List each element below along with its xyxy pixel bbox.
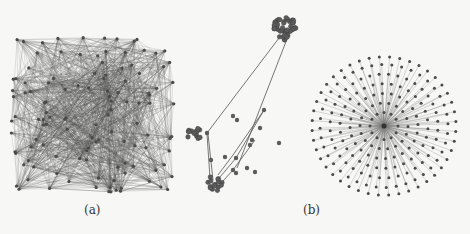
graph-node bbox=[135, 38, 138, 41]
graph-node bbox=[352, 167, 355, 170]
graph-node bbox=[110, 108, 113, 111]
graph-node bbox=[117, 91, 120, 94]
graph-node bbox=[339, 131, 342, 134]
graph-edge bbox=[333, 77, 384, 126]
graph-node bbox=[381, 92, 384, 95]
graph-node bbox=[78, 157, 81, 160]
graph-node bbox=[341, 139, 344, 142]
graph-node bbox=[170, 175, 173, 178]
graph-node bbox=[425, 180, 428, 183]
graph-node bbox=[209, 179, 214, 184]
graph-node bbox=[414, 178, 417, 181]
graph-node bbox=[399, 85, 402, 88]
graph-node bbox=[364, 139, 367, 142]
graph-node bbox=[370, 131, 373, 134]
graph-node bbox=[106, 89, 109, 92]
graph-node bbox=[413, 140, 416, 143]
graph-node bbox=[397, 175, 400, 178]
graph-node bbox=[45, 123, 48, 126]
graph-node bbox=[433, 174, 436, 177]
graph-node bbox=[124, 51, 127, 54]
graph-node bbox=[93, 72, 96, 75]
graph-node bbox=[280, 26, 285, 31]
graph-node bbox=[42, 123, 45, 126]
graph-node bbox=[384, 167, 387, 170]
graph-node bbox=[10, 131, 13, 134]
graph-node bbox=[331, 173, 334, 176]
graph-node bbox=[248, 143, 252, 147]
graph-node bbox=[329, 120, 332, 123]
graph-node bbox=[104, 73, 107, 76]
graph-node bbox=[394, 145, 397, 148]
graph-node bbox=[344, 88, 347, 91]
graph-node bbox=[79, 53, 82, 56]
graph-node bbox=[446, 92, 449, 95]
graph-node bbox=[352, 109, 355, 112]
graph-node bbox=[390, 136, 393, 139]
graph-node bbox=[398, 57, 401, 60]
graph-node bbox=[387, 102, 390, 105]
graph-node bbox=[332, 162, 335, 165]
graph-node bbox=[12, 78, 15, 81]
graph-node bbox=[147, 91, 150, 94]
graph-node bbox=[26, 178, 29, 181]
graph-node bbox=[422, 173, 425, 176]
graph-node bbox=[48, 115, 51, 118]
graph-node bbox=[355, 91, 358, 94]
graph-node bbox=[454, 120, 457, 123]
graph-node bbox=[408, 147, 411, 150]
graph-node bbox=[401, 140, 404, 143]
graph-node bbox=[401, 152, 404, 155]
graph-node bbox=[101, 61, 104, 64]
graph-node bbox=[411, 107, 414, 110]
graph-node bbox=[258, 126, 262, 130]
graph-node bbox=[363, 87, 366, 90]
hub-node bbox=[382, 124, 387, 129]
graph-node bbox=[223, 155, 227, 159]
graph-node bbox=[27, 159, 30, 162]
graph-node bbox=[91, 136, 94, 139]
graph-node bbox=[361, 67, 364, 70]
graph-node bbox=[215, 188, 220, 193]
graph-node bbox=[440, 83, 443, 86]
graph-node bbox=[124, 171, 127, 174]
graph-node bbox=[82, 36, 85, 39]
graph-node bbox=[413, 82, 416, 85]
graph-node bbox=[285, 28, 290, 33]
graph-node bbox=[351, 71, 354, 74]
graph-node bbox=[12, 95, 15, 98]
graph-node bbox=[343, 76, 346, 79]
graph-node bbox=[383, 111, 386, 114]
graph-node bbox=[138, 102, 141, 105]
graph-node bbox=[198, 135, 203, 140]
graph-edge bbox=[50, 188, 109, 191]
graph-node bbox=[421, 144, 424, 147]
graph-node bbox=[375, 166, 378, 169]
graph-node bbox=[345, 147, 348, 150]
graph-node bbox=[369, 175, 372, 178]
graph-node bbox=[219, 183, 224, 188]
graph-node bbox=[405, 171, 408, 174]
graph-node bbox=[37, 118, 40, 121]
graph-node bbox=[426, 127, 429, 130]
graph-node bbox=[421, 161, 424, 164]
graph-node bbox=[421, 88, 424, 91]
graph-node bbox=[372, 84, 375, 87]
graph-node bbox=[148, 180, 151, 183]
graph-node bbox=[315, 148, 318, 151]
graph-edge bbox=[237, 39, 287, 168]
graph-node bbox=[344, 161, 347, 164]
graph-node bbox=[10, 119, 13, 122]
graph-node bbox=[378, 147, 381, 150]
graph-node bbox=[355, 180, 358, 183]
graph-node bbox=[378, 176, 381, 179]
graph-node bbox=[42, 143, 45, 146]
graph-node bbox=[349, 98, 352, 101]
graph-node bbox=[132, 165, 135, 168]
graph-edge bbox=[326, 126, 384, 167]
graph-node bbox=[43, 101, 46, 104]
graph-node bbox=[321, 108, 324, 111]
graph-node bbox=[360, 116, 363, 119]
graph-node bbox=[390, 113, 393, 116]
graph-node bbox=[395, 105, 398, 108]
